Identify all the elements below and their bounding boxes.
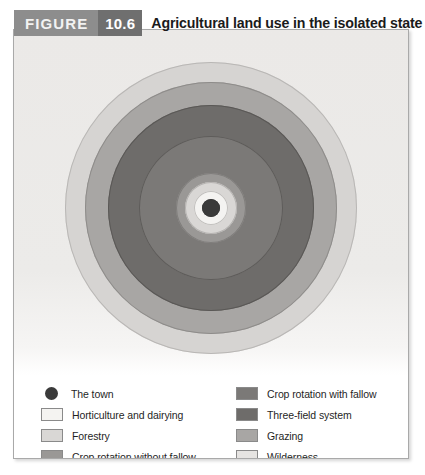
legend-label-crop-rotation-with-fallow: Crop rotation with fallow xyxy=(258,388,377,400)
legend-swatch-the-town xyxy=(45,387,58,400)
legend-column-right: Crop rotation with fallowThree-field sys… xyxy=(236,384,377,458)
figure-number: 10.6 xyxy=(98,10,142,36)
figure-header: FIGURE 10.6 Agricultural land use in the… xyxy=(14,10,422,36)
chart-area xyxy=(14,30,408,375)
legend-item-horticulture-and-dairying: Horticulture and dairying xyxy=(41,405,196,424)
legend-label-three-field-system: Three-field system xyxy=(258,409,352,421)
legend-item-crop-rotation-with-fallow: Crop rotation with fallow xyxy=(236,384,377,403)
legend-swatch-forestry xyxy=(41,429,63,442)
legend-label-wilderness: Wilderness xyxy=(258,451,318,459)
legend-swatch-three-field-system xyxy=(236,408,258,421)
legend: The townHorticulture and dairyingForestr… xyxy=(14,378,408,458)
ring-the-town xyxy=(202,199,220,217)
legend-label-the-town: The town xyxy=(62,388,113,400)
legend-item-crop-rotation-without-fallow: Crop rotation without fallow xyxy=(41,447,196,458)
figure-panel: The townHorticulture and dairyingForestr… xyxy=(13,29,409,459)
legend-item-three-field-system: Three-field system xyxy=(236,405,377,424)
legend-swatch-grazing xyxy=(236,429,258,442)
legend-swatch-crop-rotation-without-fallow xyxy=(41,450,63,458)
legend-swatch-horticulture-and-dairying xyxy=(41,408,63,421)
figure-root: FIGURE 10.6 Agricultural land use in the… xyxy=(0,0,425,475)
figure-title: Agricultural land use in the isolated st… xyxy=(142,10,422,36)
figure-label: FIGURE xyxy=(14,10,98,36)
legend-label-forestry: Forestry xyxy=(63,430,110,442)
legend-column-left: The townHorticulture and dairyingForestr… xyxy=(41,384,196,458)
legend-item-wilderness: Wilderness xyxy=(236,447,377,458)
legend-swatch-crop-rotation-with-fallow xyxy=(236,387,258,400)
legend-label-horticulture-and-dairying: Horticulture and dairying xyxy=(63,409,183,421)
concentric-ring-diagram xyxy=(61,58,361,358)
legend-item-forestry: Forestry xyxy=(41,426,196,445)
legend-item-grazing: Grazing xyxy=(236,426,377,445)
legend-label-crop-rotation-without-fallow: Crop rotation without fallow xyxy=(63,451,196,459)
legend-label-grazing: Grazing xyxy=(258,430,303,442)
legend-swatch-wilderness xyxy=(236,450,258,458)
legend-item-the-town: The town xyxy=(41,384,196,403)
